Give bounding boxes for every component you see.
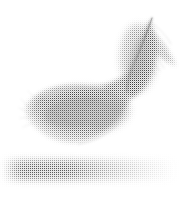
feather-scene: A single light grey feather with a soft … (0, 0, 190, 200)
vane-tint (0, 0, 190, 160)
feather (0, 0, 190, 160)
feather-illustration (0, 0, 190, 200)
